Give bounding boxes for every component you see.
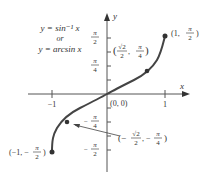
annotation-arrow (75, 125, 120, 136)
svg-text:4: 4 (93, 66, 97, 74)
svg-text:√2: √2 (118, 43, 126, 51)
svg-text:, −: , − (142, 134, 151, 143)
title-line-3: y = arcsin x (38, 44, 82, 54)
svg-text:π: π (35, 144, 39, 152)
svg-text:2: 2 (120, 52, 124, 60)
label-point-sqrt2-pi4: ( √2 2 , π 4 ) (113, 43, 149, 60)
svg-text:): ) (196, 29, 199, 38)
svg-text:2: 2 (93, 150, 97, 158)
svg-text:,: , (128, 47, 130, 56)
label-point-neg1-neg-pi2: (−1, − π 2 ) (9, 144, 46, 161)
y-tick-label-neg-pi2: − π 2 (84, 141, 99, 158)
y-tick-label-pi4: π 4 (91, 57, 99, 74)
svg-text:(−1, −: (−1, − (9, 148, 29, 157)
svg-text:π: π (93, 29, 97, 37)
svg-text:): ) (145, 44, 149, 57)
svg-text:(−: (− (118, 133, 126, 143)
label-point-1-pi2: (1, π 2 ) (171, 25, 199, 42)
svg-text:): ) (164, 133, 167, 143)
arcsin-graph: y = sin⁻¹ x or y = arcsin x y x −1 1 (0,… (0, 0, 204, 186)
svg-text:π: π (188, 25, 192, 33)
svg-text:): ) (43, 148, 46, 157)
svg-text:(: ( (113, 44, 117, 57)
x-tick-label-1: 1 (163, 100, 167, 109)
svg-text:2: 2 (134, 139, 138, 147)
x-tick-label-neg1: −1 (48, 100, 57, 109)
y-axis-arrow-icon (104, 13, 110, 21)
svg-text:−: − (84, 146, 88, 154)
svg-text:−: − (84, 118, 88, 126)
svg-text:π: π (138, 43, 142, 51)
svg-text:2: 2 (35, 153, 39, 161)
origin-label: (0, 0) (110, 99, 128, 108)
y-tick-label-pi2: π 2 (91, 29, 99, 46)
x-axis-label: x (179, 81, 184, 91)
svg-text:(1,: (1, (171, 29, 180, 38)
svg-text:2: 2 (93, 38, 97, 46)
title-line-2: or (56, 34, 64, 43)
label-point-neg-sqrt2-neg-pi4: (− √2 2 , − π 4 ) (118, 130, 167, 147)
x-axis-arrow-icon (182, 91, 190, 97)
svg-text:π: π (93, 113, 97, 121)
svg-text:√2: √2 (132, 130, 140, 138)
point-1-pi2 (163, 34, 168, 39)
svg-text:2: 2 (188, 34, 192, 42)
point-neg1-neg-pi2 (50, 150, 55, 155)
point-neg-sqrt2-neg-pi4 (65, 120, 70, 125)
annotation-arrowhead-icon (73, 124, 80, 128)
point-sqrt2-pi4 (145, 69, 150, 74)
title-line-1: y = sin⁻¹ x (40, 23, 80, 33)
function-title: y = sin⁻¹ x or y = arcsin x (38, 23, 82, 54)
svg-text:4: 4 (93, 122, 97, 130)
svg-text:4: 4 (138, 52, 142, 60)
svg-text:π: π (156, 130, 160, 138)
svg-text:π: π (93, 57, 97, 65)
svg-text:π: π (93, 141, 97, 149)
svg-text:4: 4 (156, 139, 160, 147)
y-axis-label: y (112, 11, 117, 21)
